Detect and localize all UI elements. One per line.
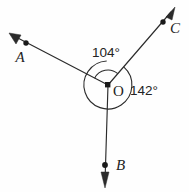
angle-figure-svg: A C B O 104° 142° [0,0,189,192]
arrowhead-a-icon [9,33,21,44]
geometry-diagram: A C B O 104° 142° [0,0,189,192]
label-point-b: B [116,157,125,173]
label-point-c: C [170,20,181,36]
label-angle-aoc: 104° [92,45,120,60]
arrowhead-b-icon [101,172,109,188]
label-point-a: A [14,49,25,65]
point-dot-c [160,19,165,24]
point-dot-a [23,40,28,45]
label-vertex-o: O [113,83,124,99]
point-dot-b [102,162,108,168]
vertex-dot-o [105,82,110,87]
arrowhead-c-icon [166,7,175,20]
label-angle-cob: 142° [130,83,158,98]
